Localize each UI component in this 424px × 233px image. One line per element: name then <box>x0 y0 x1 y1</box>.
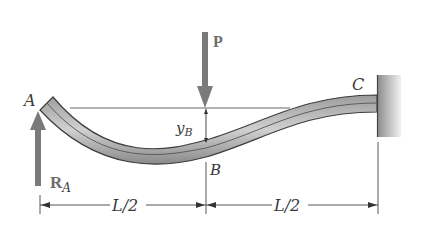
span-label-ab: L/2 <box>111 196 138 215</box>
point-label-b: B <box>209 161 221 179</box>
point-label-c: C <box>352 75 364 94</box>
reaction-arrow-ra <box>30 111 46 186</box>
load-label-p: P <box>213 33 223 50</box>
point-label-a: A <box>22 91 36 110</box>
deflection-label: yB <box>175 119 193 139</box>
load-arrow-p <box>197 32 213 108</box>
span-label-bc: L/2 <box>273 196 300 215</box>
beam-diagram: P yB A B C RA L/2 L/2 <box>0 0 424 233</box>
reaction-label-ra: RA <box>50 173 71 195</box>
deflected-beam <box>40 95 377 164</box>
deflection-dimension <box>204 109 208 143</box>
fixed-support-wall <box>377 75 401 137</box>
